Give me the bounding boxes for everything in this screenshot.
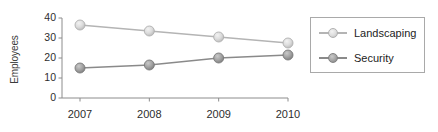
legend-item-security[interactable]: Security bbox=[319, 49, 394, 67]
legend-item-landscaping[interactable]: Landscaping bbox=[319, 24, 416, 42]
data-point-marker bbox=[283, 38, 293, 48]
data-point-marker bbox=[214, 32, 224, 42]
data-point-marker bbox=[75, 20, 85, 30]
circle-marker-dark-icon bbox=[319, 51, 347, 65]
series-line bbox=[80, 25, 288, 43]
series-lines bbox=[80, 25, 288, 68]
legend-label-security: Security bbox=[354, 52, 394, 64]
legend-label-landscaping: Landscaping bbox=[354, 27, 416, 39]
data-point-marker bbox=[214, 53, 224, 63]
employees-line-chart: Employees 403020100 2007200820092010 bbox=[0, 0, 438, 132]
series-line bbox=[80, 55, 288, 68]
circle-marker-light-icon bbox=[319, 26, 347, 40]
data-point-marker bbox=[144, 60, 154, 70]
chart-legend: Landscaping Security bbox=[310, 17, 425, 73]
data-point-marker bbox=[75, 63, 85, 73]
axis-lines bbox=[59, 18, 289, 102]
data-point-marker bbox=[283, 50, 293, 60]
data-point-marker bbox=[144, 26, 154, 36]
